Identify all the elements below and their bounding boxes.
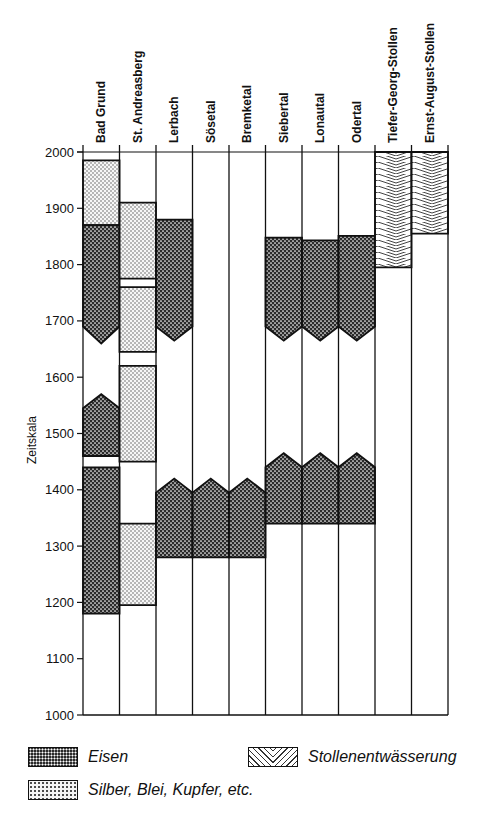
interval-silber [120, 287, 157, 352]
column-label: Bremketal [240, 85, 254, 143]
column-label: Lonautal [313, 93, 327, 143]
interval-silber [120, 366, 157, 462]
interval-silber [120, 203, 157, 279]
interval-eisen [339, 236, 376, 341]
column-label: Ernst-August-Stollen [423, 23, 437, 143]
y-tick-label: 2000 [45, 145, 74, 160]
y-tick-label: 1400 [45, 482, 74, 497]
silber-swatch-icon [28, 780, 78, 800]
y-tick-label: 1900 [45, 201, 74, 216]
y-tick-label: 1000 [45, 708, 74, 723]
interval-eisen [83, 225, 120, 343]
column-label: Lerbach [167, 96, 181, 143]
legend-silber-label: Silber, Blei, Kupfer, etc. [88, 781, 253, 799]
column-label: Tiefer-Georg-Stollen [386, 27, 400, 143]
interval-eisen [339, 453, 376, 523]
timeline-chart: 1000110012001300140015001600170018001900… [0, 0, 485, 824]
column-label: St. Andreasberg [131, 51, 145, 143]
column-label: Bad Grund [94, 81, 108, 143]
column-label: Sösetal [204, 100, 218, 143]
legend-stollen: Stollenentwässerung [248, 747, 457, 767]
legend-silber: Silber, Blei, Kupfer, etc. [28, 780, 253, 800]
interval-stollen [412, 152, 449, 234]
interval-eisen [266, 238, 303, 341]
interval-eisen [302, 240, 339, 340]
stollen-swatch-icon [248, 747, 298, 767]
y-tick-label: 1800 [45, 257, 74, 272]
interval-eisen [266, 453, 303, 523]
column-label: Odertal [350, 101, 364, 143]
interval-silber [120, 524, 157, 606]
y-tick-label: 1500 [45, 426, 74, 441]
y-tick-label: 1100 [46, 651, 74, 666]
interval-eisen [156, 479, 193, 558]
eisen-swatch-icon [28, 747, 78, 767]
y-tick-label: 1200 [45, 595, 74, 610]
column-label: Siebertal [277, 92, 291, 143]
legend-eisen-label: Eisen [88, 748, 128, 766]
interval-eisen [229, 479, 266, 558]
interval-eisen [83, 467, 120, 613]
interval-eisen [156, 220, 193, 341]
interval-eisen [193, 479, 230, 558]
interval-eisen [83, 394, 120, 456]
y-axis-label: Zeitskala [25, 416, 39, 464]
legend-eisen: Eisen [28, 747, 128, 767]
axis-layer: 1000110012001300140015001600170018001900… [25, 145, 83, 723]
interval-eisen [302, 453, 339, 523]
interval-silber [83, 160, 120, 225]
interval-stollen [375, 152, 412, 267]
y-tick-label: 1700 [45, 313, 74, 328]
y-tick-label: 1300 [45, 539, 74, 554]
legend-stollen-label: Stollenentwässerung [308, 748, 457, 766]
y-tick-label: 1600 [45, 370, 74, 385]
column-labels: Bad GrundSt. AndreasbergLerbachSösetalBr… [94, 23, 437, 143]
